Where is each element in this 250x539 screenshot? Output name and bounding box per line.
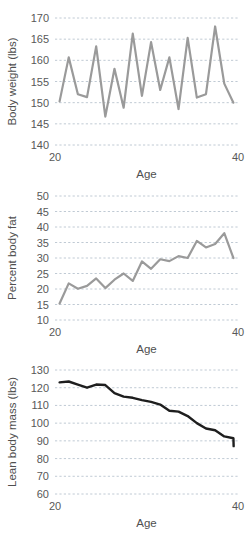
data-series-line	[60, 382, 234, 447]
x-tick-label: 40	[232, 326, 244, 338]
y-tick-label: 170	[31, 12, 49, 24]
y-tick-label: 140	[31, 139, 49, 151]
y-tick-label: 130	[31, 364, 49, 376]
x-tick-label: 20	[49, 151, 61, 163]
y-tick-label: 110	[31, 399, 49, 411]
y-axis-title: Body weight (lbs)	[6, 37, 18, 125]
y-tick-label: 165	[31, 33, 49, 45]
y-tick-label: 155	[31, 76, 49, 88]
y-tick-label: 100	[31, 417, 49, 429]
y-tick-label: 10	[37, 314, 49, 326]
chart-svg-body-weight: 1401451501551601651702040AgeBody weight …	[0, 10, 250, 185]
x-axis-title: Age	[136, 517, 156, 529]
x-tick-label: 40	[232, 151, 244, 163]
y-tick-label: 50	[37, 190, 49, 202]
y-tick-label: 80	[37, 453, 49, 465]
x-axis-title: Age	[136, 343, 156, 355]
y-tick-label: 35	[37, 237, 49, 249]
x-tick-label: 40	[232, 500, 244, 512]
y-axis-title: Percent body fat	[6, 215, 18, 300]
y-tick-label: 150	[31, 97, 49, 109]
y-tick-label: 90	[37, 435, 49, 447]
x-tick-label: 20	[49, 500, 61, 512]
x-axis-title: Age	[136, 168, 156, 180]
y-tick-label: 45	[37, 206, 49, 218]
y-tick-label: 60	[37, 488, 49, 500]
three-panel-line-chart-figure: 1401451501551601651702040AgeBody weight …	[0, 0, 250, 539]
y-tick-label: 25	[37, 268, 49, 280]
y-tick-label: 15	[37, 299, 49, 311]
chart-svg-lean-body-mass: 607080901001101201302040AgeLean body mas…	[0, 362, 250, 534]
y-tick-label: 120	[31, 382, 49, 394]
chart-panel-percent-body-fat: 1015202530354045502040AgePercent body fa…	[0, 188, 250, 360]
chart-panel-lean-body-mass: 607080901001101201302040AgeLean body mas…	[0, 362, 250, 534]
chart-svg-percent-body-fat: 1015202530354045502040AgePercent body fa…	[0, 188, 250, 360]
data-series-line	[60, 26, 234, 116]
x-tick-label: 20	[49, 326, 61, 338]
y-axis-title: Lean body mass (lbs)	[6, 377, 18, 487]
y-tick-label: 40	[37, 221, 49, 233]
data-series-line	[60, 233, 234, 303]
chart-panel-body-weight: 1401451501551601651702040AgeBody weight …	[0, 10, 250, 185]
y-tick-label: 20	[37, 283, 49, 295]
y-tick-label: 145	[31, 118, 49, 130]
y-tick-label: 70	[37, 470, 49, 482]
y-tick-label: 30	[37, 252, 49, 264]
y-tick-label: 160	[31, 54, 49, 66]
